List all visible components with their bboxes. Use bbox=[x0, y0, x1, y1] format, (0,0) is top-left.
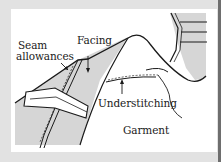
understitching-edge bbox=[106, 77, 156, 82]
label-facing: Facing bbox=[77, 35, 112, 46]
label-understitching: Understitching bbox=[98, 98, 177, 109]
frame-right-edge bbox=[218, 0, 221, 162]
garment-inner-edge bbox=[146, 68, 168, 72]
label-allowances: allowances bbox=[16, 51, 74, 62]
diagram-frame: Seam allowances Facing Understitching Ga… bbox=[0, 0, 221, 162]
understitch-arrow-head bbox=[120, 79, 124, 84]
label-garment: Garment bbox=[123, 125, 169, 136]
sewing-illustration bbox=[0, 0, 221, 162]
